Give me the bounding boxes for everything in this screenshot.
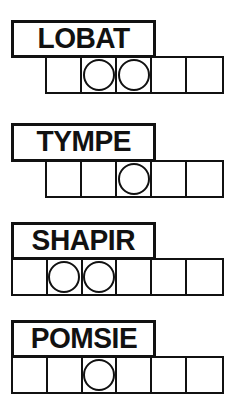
answer-cell[interactable]	[83, 358, 118, 392]
answer-cell[interactable]	[83, 260, 118, 294]
puzzle-label-text: LOBAT	[37, 24, 129, 55]
answer-cell[interactable]	[152, 162, 187, 196]
circle-marker-icon	[48, 261, 80, 293]
answer-cell[interactable]	[48, 358, 83, 392]
answer-cell[interactable]	[187, 58, 222, 92]
answer-grid	[45, 160, 224, 198]
answer-cell[interactable]	[47, 162, 82, 196]
answer-cell[interactable]	[117, 358, 152, 392]
puzzle-label-box: LOBAT	[11, 20, 156, 58]
answer-cell[interactable]	[152, 260, 187, 294]
answer-grid	[11, 258, 224, 296]
answer-cell[interactable]	[117, 162, 152, 196]
answer-cell[interactable]	[152, 358, 187, 392]
circle-marker-icon	[83, 261, 115, 293]
puzzle-label-box: TYMPE	[11, 123, 156, 162]
puzzle-label-text: SHAPIR	[32, 226, 135, 257]
answer-cell[interactable]	[117, 260, 152, 294]
answer-cell[interactable]	[187, 162, 222, 196]
answer-cell[interactable]	[82, 162, 117, 196]
answer-cell[interactable]	[47, 58, 82, 92]
circle-marker-icon	[83, 359, 115, 391]
puzzle-label-box: POMSIE	[11, 320, 156, 358]
answer-cell[interactable]	[117, 58, 152, 92]
answer-cell[interactable]	[82, 58, 117, 92]
answer-cell[interactable]	[48, 260, 83, 294]
answer-cell[interactable]	[13, 260, 48, 294]
answer-cell[interactable]	[187, 260, 222, 294]
answer-cell[interactable]	[13, 358, 48, 392]
puzzle-sheet: LOBATTYMPESHAPIRPOMSIE	[0, 0, 233, 395]
answer-cell[interactable]	[187, 358, 222, 392]
puzzle-label-text: POMSIE	[30, 324, 137, 355]
answer-grid	[11, 356, 224, 394]
circle-marker-icon	[118, 59, 150, 91]
circle-marker-icon	[118, 163, 150, 195]
answer-grid	[45, 56, 224, 94]
answer-cell[interactable]	[152, 58, 187, 92]
circle-marker-icon	[83, 59, 115, 91]
puzzle-label-text: TYMPE	[36, 127, 130, 158]
puzzle-label-box: SHAPIR	[11, 222, 156, 260]
